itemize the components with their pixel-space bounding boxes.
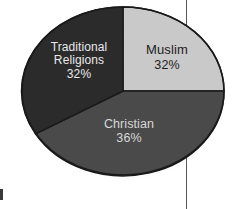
pie-chart-figure: Muslim 32% Traditional Religions 32% Chr…: [0, 0, 237, 209]
pie-slice-muslim[interactable]: [123, 7, 224, 91]
pie-chart-graphic: [0, 0, 237, 209]
